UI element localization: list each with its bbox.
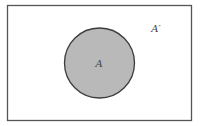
venn-diagram: A A′ <box>0 0 200 126</box>
set-a-label: A <box>94 58 102 69</box>
complement-label: A′ <box>150 23 161 34</box>
